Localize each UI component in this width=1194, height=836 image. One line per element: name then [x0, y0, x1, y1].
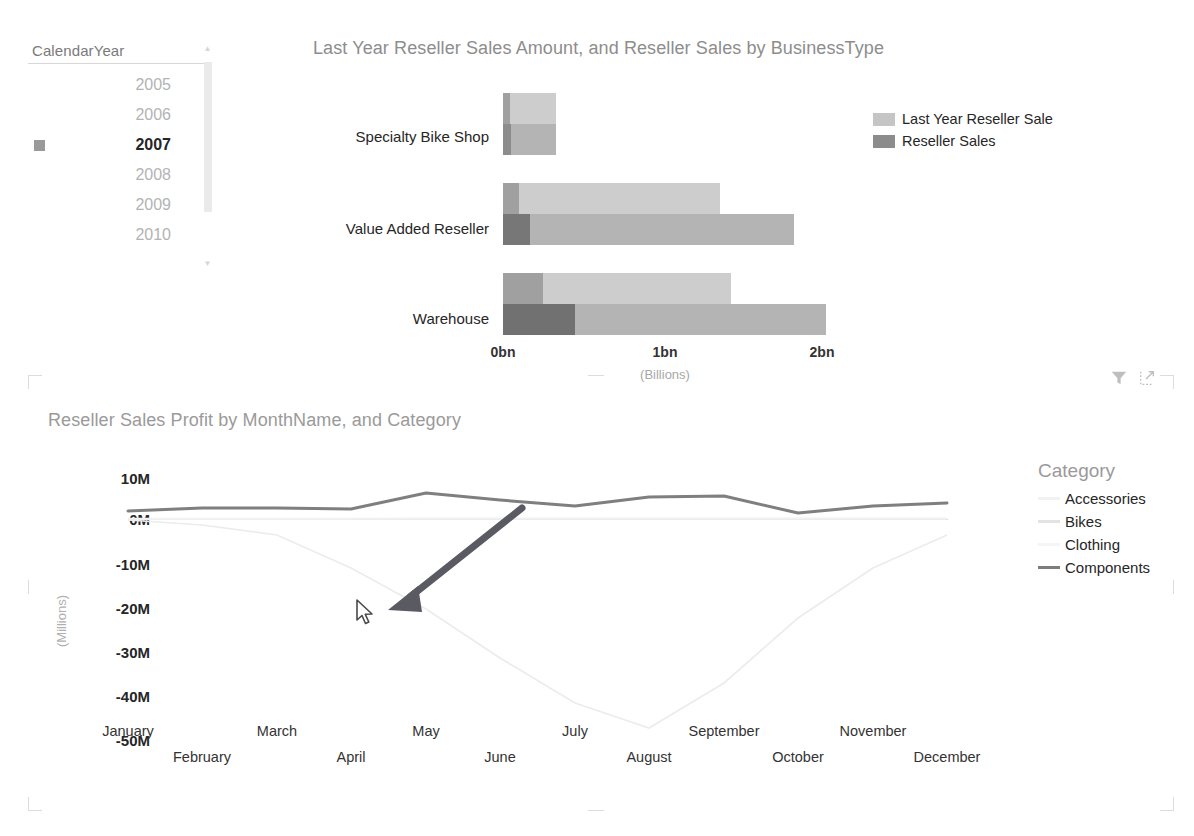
legend-item-label: Reseller Sales	[902, 133, 996, 149]
slicer-item-2010[interactable]: 2010	[28, 220, 213, 250]
legend-item-label: Components	[1065, 559, 1150, 576]
bar-xtick-0bn: 0bn	[491, 344, 516, 360]
bar-xtick-2bn: 2bn	[810, 344, 835, 360]
bar-category-label-warehouse: Warehouse	[231, 310, 489, 327]
line-xtick-november: November	[840, 723, 907, 739]
bar-fill-total	[503, 183, 720, 214]
line-chart-legend[interactable]: Category Accessories Bikes Clothing Comp…	[1038, 460, 1188, 579]
slicer-item-label: 2009	[49, 196, 213, 214]
bar-fill-highlight	[503, 304, 575, 335]
legend-item-last-year-reseller-sales[interactable]: Last Year Reseller Sale	[873, 108, 1131, 130]
legend-item-label: Bikes	[1065, 513, 1102, 530]
bar-chart-legend[interactable]: Last Year Reseller Sale Reseller Sales	[873, 108, 1131, 152]
slicer-item-2008[interactable]: 2008	[28, 160, 213, 190]
card-corner-bottom-left	[28, 797, 42, 811]
line-xtick-december: December	[914, 749, 981, 765]
legend-swatch-icon	[873, 135, 895, 148]
line-xtick-february: February	[173, 749, 231, 765]
legend-item-reseller-sales[interactable]: Reseller Sales	[873, 130, 1131, 152]
scroll-down-arrow-icon[interactable]: ▼	[203, 260, 212, 267]
checkbox-checked-icon[interactable]	[34, 140, 45, 151]
slicer-item-2006[interactable]: 2006	[28, 100, 213, 130]
bar-fill-total	[503, 93, 556, 124]
filter-icon[interactable]	[1110, 369, 1128, 387]
bar-group-warehouse[interactable]	[503, 273, 1123, 337]
legend-item-accessories[interactable]: Accessories	[1038, 487, 1188, 510]
card-edge-top	[588, 375, 604, 376]
legend-item-bikes[interactable]: Bikes	[1038, 510, 1188, 533]
line-xtick-september: September	[689, 723, 760, 739]
legend-item-clothing[interactable]: Clothing	[1038, 533, 1188, 556]
line-xtick-october: October	[772, 749, 824, 765]
line-xtick-july: July	[562, 723, 588, 739]
checkbox-icon[interactable]	[34, 80, 45, 91]
bar-chart-visual[interactable]: Last Year Reseller Sales Amount, and Res…	[228, 30, 1178, 370]
line-xtick-june: June	[484, 749, 515, 765]
legend-swatch-icon	[873, 113, 895, 126]
line-xtick-january: January	[102, 723, 154, 739]
bar-fill-highlight	[503, 214, 530, 245]
card-corner-top-left	[28, 375, 42, 389]
slicer-item-label: 2007	[49, 136, 213, 154]
checkbox-icon[interactable]	[34, 170, 45, 181]
card-corner-top-right	[1160, 375, 1174, 389]
bar-xtick-1bn: 1bn	[653, 344, 678, 360]
bar-group-value-added-reseller[interactable]	[503, 183, 1123, 247]
bar-fill-highlight	[503, 273, 543, 304]
card-edge-bottom	[588, 810, 604, 811]
visual-header-icons[interactable]	[1110, 369, 1156, 387]
bar-fill-total	[503, 214, 794, 245]
checkbox-icon[interactable]	[34, 110, 45, 121]
bar-category-label-value-added-reseller: Value Added Reseller	[231, 220, 489, 237]
line-xtick-august: August	[626, 749, 671, 765]
calendar-year-slicer[interactable]: CalendarYear 2005 2006 2007 2008 2009	[28, 42, 213, 272]
slicer-scrollbar[interactable]: ▲ ▼	[200, 44, 215, 268]
bar-fill-highlight	[503, 124, 511, 155]
bar-chart-title: Last Year Reseller Sales Amount, and Res…	[313, 38, 884, 59]
slicer-item-label: 2010	[49, 226, 213, 244]
line-xtick-may: May	[412, 723, 439, 739]
line-chart-svg	[28, 447, 1174, 797]
slicer-item-2005[interactable]: 2005	[28, 70, 213, 100]
report-canvas: CalendarYear 2005 2006 2007 2008 2009	[0, 0, 1194, 836]
legend-item-label: Last Year Reseller Sale	[902, 111, 1053, 127]
legend-item-label: Clothing	[1065, 536, 1120, 553]
checkbox-icon[interactable]	[34, 200, 45, 211]
focus-mode-icon[interactable]	[1138, 369, 1156, 387]
bar-category-label-specialty-bike-shop: Specialty Bike Shop	[231, 128, 489, 145]
scrollbar-thumb[interactable]	[204, 62, 212, 212]
checkbox-icon[interactable]	[34, 230, 45, 241]
series-line-components	[128, 493, 947, 513]
slicer-item-label: 2006	[49, 106, 213, 124]
legend-title: Category	[1038, 460, 1188, 482]
slicer-item-2007[interactable]: 2007	[28, 130, 213, 160]
slicer-item-list: 2005 2006 2007 2008 2009 2010	[28, 70, 213, 250]
line-chart-title: Reseller Sales Profit by MonthName, and …	[48, 410, 461, 431]
legend-line-icon	[1038, 543, 1060, 546]
legend-item-components[interactable]: Components	[1038, 556, 1188, 579]
slicer-title: CalendarYear	[28, 42, 213, 59]
slicer-divider	[28, 63, 206, 64]
slicer-item-label: 2008	[49, 166, 213, 184]
scroll-up-arrow-icon[interactable]: ▲	[203, 45, 212, 52]
legend-line-icon	[1038, 520, 1060, 523]
legend-item-label: Accessories	[1065, 490, 1146, 507]
slicer-item-label: 2005	[49, 76, 213, 94]
card-corner-bottom-right	[1160, 797, 1174, 811]
line-xtick-april: April	[336, 749, 365, 765]
line-xtick-march: March	[257, 723, 297, 739]
line-chart-plot-area: (Millions) 10M 0M -10M -20M -30M -40M -5…	[28, 447, 1174, 797]
series-line-bikes	[128, 520, 947, 728]
line-chart-visual[interactable]: Reseller Sales Profit by MonthName, and …	[28, 375, 1174, 811]
legend-line-icon	[1038, 566, 1060, 569]
slicer-item-2009[interactable]: 2009	[28, 190, 213, 220]
legend-line-icon	[1038, 497, 1060, 500]
bar-fill-highlight	[503, 93, 510, 124]
bar-fill-highlight	[503, 183, 519, 214]
